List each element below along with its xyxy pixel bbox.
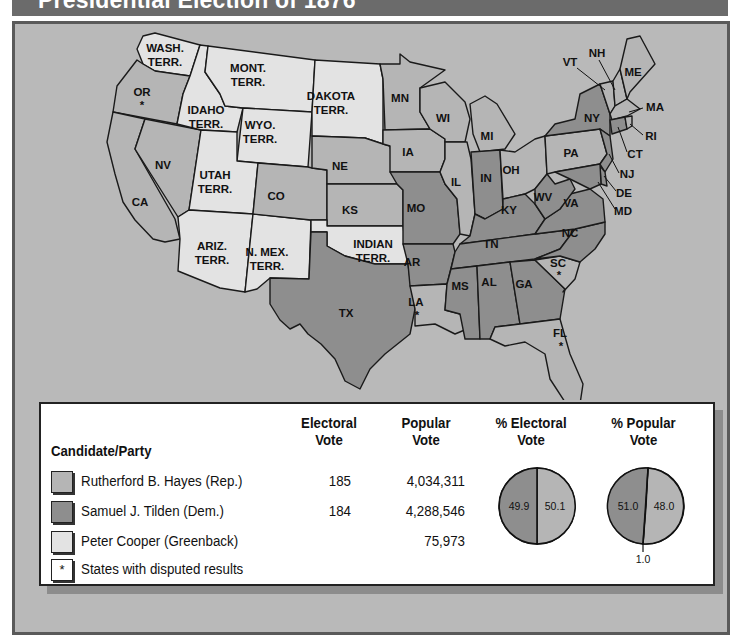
title-bar: Presidential Election of 1876 bbox=[12, 0, 728, 16]
state-co[interactable] bbox=[253, 163, 327, 220]
svg-text:TX: TX bbox=[339, 307, 354, 319]
svg-text:TERR.: TERR. bbox=[195, 254, 230, 266]
svg-text:NC: NC bbox=[562, 227, 579, 239]
svg-text:IDAHO: IDAHO bbox=[187, 104, 224, 116]
svg-text:MO: MO bbox=[407, 202, 426, 214]
svg-text:RI: RI bbox=[645, 130, 657, 142]
svg-text:NY: NY bbox=[584, 112, 600, 124]
candidate-name: Samuel J. Tilden (Dem.) bbox=[81, 502, 224, 520]
popular-vote-tilden: 4,288,546 bbox=[393, 502, 465, 520]
svg-text:OR: OR bbox=[133, 86, 151, 98]
svg-text:WASH.: WASH. bbox=[146, 42, 184, 54]
pie-electoral-vote: 49.9 50.1 bbox=[497, 466, 577, 548]
state-ct[interactable] bbox=[610, 117, 627, 134]
svg-text:AR: AR bbox=[404, 256, 421, 268]
svg-text:DAKOTA: DAKOTA bbox=[307, 90, 355, 102]
svg-text:48.0: 48.0 bbox=[654, 500, 675, 512]
svg-text:*: * bbox=[140, 99, 145, 111]
svg-text:MD: MD bbox=[614, 205, 632, 217]
svg-text:SC: SC bbox=[550, 257, 566, 269]
us-map: WASH. TERR. OR * CA NV IDAHO TERR. MONT.… bbox=[15, 24, 727, 400]
svg-text:50.1: 50.1 bbox=[545, 500, 566, 512]
header-pct-popular-vote: % Popular Vote bbox=[602, 414, 686, 448]
svg-text:*: * bbox=[557, 269, 562, 281]
svg-text:OH: OH bbox=[502, 164, 519, 176]
svg-text:MA: MA bbox=[646, 101, 664, 113]
svg-text:LA: LA bbox=[408, 296, 423, 308]
header-popular-vote: Popular Vote bbox=[391, 414, 461, 448]
state-ia[interactable] bbox=[383, 129, 445, 172]
svg-text:UTAH: UTAH bbox=[199, 169, 230, 181]
svg-text:NE: NE bbox=[332, 160, 348, 172]
svg-text:PA: PA bbox=[563, 147, 578, 159]
svg-text:TERR.: TERR. bbox=[231, 76, 266, 88]
state-dakota-terr[interactable] bbox=[312, 60, 383, 144]
svg-text:VT: VT bbox=[563, 56, 578, 68]
state-ks[interactable] bbox=[327, 184, 403, 226]
state-in[interactable] bbox=[471, 150, 503, 219]
svg-text:AL: AL bbox=[481, 276, 496, 288]
header-pct-electoral-vote: % Electoral Vote bbox=[487, 414, 575, 448]
popular-vote-hayes: 4,034,311 bbox=[393, 472, 465, 490]
svg-text:MI: MI bbox=[481, 130, 494, 142]
svg-text:TERR.: TERR. bbox=[189, 118, 224, 130]
svg-text:TERR.: TERR. bbox=[314, 104, 349, 116]
electoral-vote-tilden: 184 bbox=[308, 502, 351, 520]
svg-text:WI: WI bbox=[436, 112, 450, 124]
map-frame: WASH. TERR. OR * CA NV IDAHO TERR. MONT.… bbox=[12, 21, 730, 635]
svg-text:TERR.: TERR. bbox=[198, 183, 233, 195]
svg-text:DE: DE bbox=[616, 187, 632, 199]
popular-vote-cooper: 75,973 bbox=[393, 532, 465, 550]
header-candidate: Candidate/Party bbox=[51, 442, 151, 459]
svg-text:1.0: 1.0 bbox=[636, 553, 651, 565]
svg-text:NH: NH bbox=[589, 47, 606, 59]
svg-text:INDIAN: INDIAN bbox=[353, 238, 393, 250]
svg-text:KS: KS bbox=[342, 204, 358, 216]
svg-text:FL: FL bbox=[553, 327, 567, 339]
svg-text:MS: MS bbox=[451, 280, 469, 292]
svg-text:MONT.: MONT. bbox=[230, 62, 266, 74]
svg-text:NV: NV bbox=[155, 159, 171, 171]
svg-text:WV: WV bbox=[534, 191, 553, 203]
svg-text:ME: ME bbox=[624, 66, 642, 78]
greenback-swatch bbox=[51, 531, 73, 553]
svg-text:GA: GA bbox=[515, 278, 532, 290]
svg-text:ARIZ.: ARIZ. bbox=[197, 240, 227, 252]
page-title: Presidential Election of 1876 bbox=[38, 0, 356, 14]
svg-text:*: * bbox=[559, 340, 564, 352]
disputed-star-icon: * bbox=[51, 559, 73, 581]
state-mi[interactable] bbox=[470, 96, 515, 152]
svg-text:CO: CO bbox=[267, 190, 284, 202]
democrat-swatch bbox=[51, 501, 73, 523]
legend-table: Candidate/Party Electoral Vote Popular V… bbox=[39, 402, 715, 586]
svg-text:TN: TN bbox=[483, 238, 498, 250]
state-ny[interactable] bbox=[545, 84, 610, 136]
svg-text:*: * bbox=[415, 309, 420, 321]
disputed-label: States with disputed results bbox=[81, 560, 243, 578]
svg-text:IA: IA bbox=[402, 146, 414, 158]
svg-text:MN: MN bbox=[391, 92, 409, 104]
pie-popular-vote: 51.0 48.0 1.0 bbox=[606, 466, 686, 566]
svg-text:N. MEX.: N. MEX. bbox=[246, 246, 289, 258]
svg-text:TERR.: TERR. bbox=[356, 252, 391, 264]
state-fl[interactable] bbox=[490, 319, 583, 400]
header-electoral-vote: Electoral Vote bbox=[294, 414, 364, 448]
svg-text:IL: IL bbox=[451, 176, 461, 188]
svg-text:NJ: NJ bbox=[620, 168, 635, 180]
svg-text:TERR.: TERR. bbox=[148, 56, 183, 68]
svg-text:WYO.: WYO. bbox=[245, 119, 276, 131]
svg-text:TERR.: TERR. bbox=[250, 260, 285, 272]
svg-text:VA: VA bbox=[563, 197, 578, 209]
state-ri[interactable] bbox=[625, 116, 632, 129]
svg-text:TERR.: TERR. bbox=[243, 133, 278, 145]
electoral-vote-hayes: 185 bbox=[308, 472, 351, 490]
svg-text:49.9: 49.9 bbox=[509, 500, 530, 512]
candidate-name: Peter Cooper (Greenback) bbox=[81, 532, 238, 550]
candidate-name: Rutherford B. Hayes (Rep.) bbox=[81, 472, 243, 490]
svg-text:IN: IN bbox=[480, 172, 492, 184]
republican-swatch bbox=[51, 471, 73, 493]
svg-text:CT: CT bbox=[627, 148, 642, 160]
svg-text:51.0: 51.0 bbox=[618, 500, 639, 512]
svg-text:KY: KY bbox=[501, 204, 517, 216]
svg-text:CA: CA bbox=[132, 196, 149, 208]
